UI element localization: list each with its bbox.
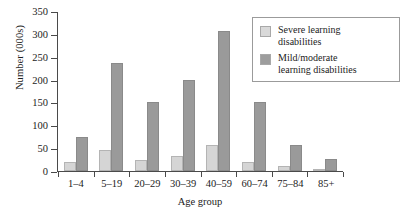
x-axis-ticks <box>58 172 343 177</box>
mild-swatch-icon <box>260 54 271 65</box>
bar <box>171 156 183 171</box>
legend-label-severe-line1: Severe learning <box>278 24 340 35</box>
x-axis-tick <box>272 172 273 177</box>
y-axis-tick <box>51 58 57 59</box>
x-axis-title: Age group <box>57 196 343 207</box>
x-axis-tick <box>94 172 95 177</box>
y-axis-title: Number (000s) <box>14 3 25 113</box>
x-axis-tick <box>201 172 202 177</box>
bar <box>290 145 302 172</box>
y-axis-tick-label: 0 <box>43 167 48 178</box>
x-axis-tick-label: 20–29 <box>130 178 166 189</box>
x-axis-labels: 1–45–1920–2930–3940–5960–7475–8485+ <box>58 178 344 189</box>
bar-group <box>165 12 201 171</box>
bar-chart: Number (000s) 050100150200250300350 1–45… <box>0 0 405 220</box>
bar-group <box>58 12 94 171</box>
bar <box>64 162 76 171</box>
bar <box>76 137 88 171</box>
x-axis-tick <box>129 172 130 177</box>
y-axis-tick-label: 50 <box>38 144 49 155</box>
x-axis-tick-label: 60–74 <box>237 178 273 189</box>
bar <box>183 80 195 171</box>
x-axis-tick <box>165 172 166 177</box>
x-axis-tick-label: 75–84 <box>273 178 309 189</box>
legend-item-mild: Mild/moderate learning disabilities <box>260 52 393 75</box>
legend-label-severe-line2: disabilities <box>278 36 321 47</box>
legend-label-mild-line2: learning disabilities <box>278 64 357 75</box>
x-axis-tick-label: 40–59 <box>201 178 237 189</box>
y-axis-tick <box>51 35 57 36</box>
x-axis-tick <box>307 172 308 177</box>
bar <box>99 150 111 171</box>
y-axis-tick-label: 350 <box>32 7 48 18</box>
legend-label-mild-line1: Mild/moderate <box>278 52 337 63</box>
y-axis-tick-label: 100 <box>32 121 48 132</box>
bar <box>147 102 159 171</box>
y-axis-tick <box>51 126 57 127</box>
bar <box>218 31 230 171</box>
x-axis-tick-label: 1–4 <box>58 178 94 189</box>
bar <box>135 160 147 171</box>
y-axis-tick-label: 300 <box>32 30 48 41</box>
y-axis-tick <box>51 81 57 82</box>
bar <box>206 145 218 172</box>
y-axis-tick-label: 250 <box>32 52 48 63</box>
x-axis-tick <box>236 172 237 177</box>
chart-legend: Severe learning disabilities Mild/modera… <box>252 17 400 82</box>
legend-label-severe: Severe learning disabilities <box>278 24 340 47</box>
x-axis-tick <box>58 172 59 177</box>
legend-item-severe: Severe learning disabilities <box>260 24 393 47</box>
bar-group <box>94 12 130 171</box>
severe-swatch-icon <box>260 26 271 37</box>
legend-label-mild: Mild/moderate learning disabilities <box>278 52 357 75</box>
bar <box>325 159 337 171</box>
y-axis-tick <box>51 172 57 173</box>
bar <box>242 162 254 171</box>
x-axis-tick <box>343 172 344 177</box>
x-axis-tick-label: 85+ <box>308 178 344 189</box>
y-axis-tick <box>51 103 57 104</box>
x-axis-tick-label: 30–39 <box>165 178 201 189</box>
bar <box>313 169 325 171</box>
bar <box>278 166 290 171</box>
bar <box>111 63 123 171</box>
bar-group <box>129 12 165 171</box>
x-axis-tick-label: 5–19 <box>94 178 130 189</box>
bar-group <box>201 12 237 171</box>
bar <box>254 102 266 171</box>
y-axis-tick <box>51 149 57 150</box>
y-axis-tick-label: 150 <box>32 98 48 109</box>
y-axis-tick <box>51 12 57 13</box>
y-axis-tick-label: 200 <box>32 75 48 86</box>
